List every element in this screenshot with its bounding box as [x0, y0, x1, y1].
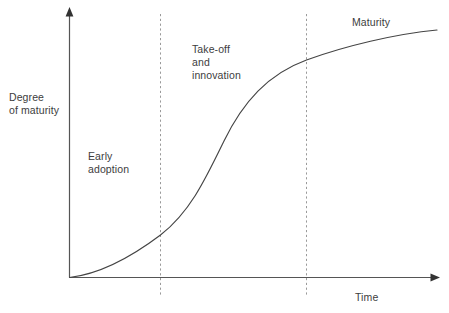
phase-label-maturity: Maturity [352, 16, 390, 29]
y-axis-arrow-icon [66, 7, 74, 17]
y-axis-label: Degree of maturity [9, 91, 59, 117]
phase-label-take-off-and-innovation: Take-off and innovation [192, 43, 241, 82]
x-axis-arrow-icon [431, 274, 441, 282]
x-axis-label: Time [355, 291, 378, 304]
phase-label-early-adoption: Early adoption [88, 150, 129, 176]
s-curve-diagram: Degree of maturity Time Early adoption T… [0, 0, 449, 313]
